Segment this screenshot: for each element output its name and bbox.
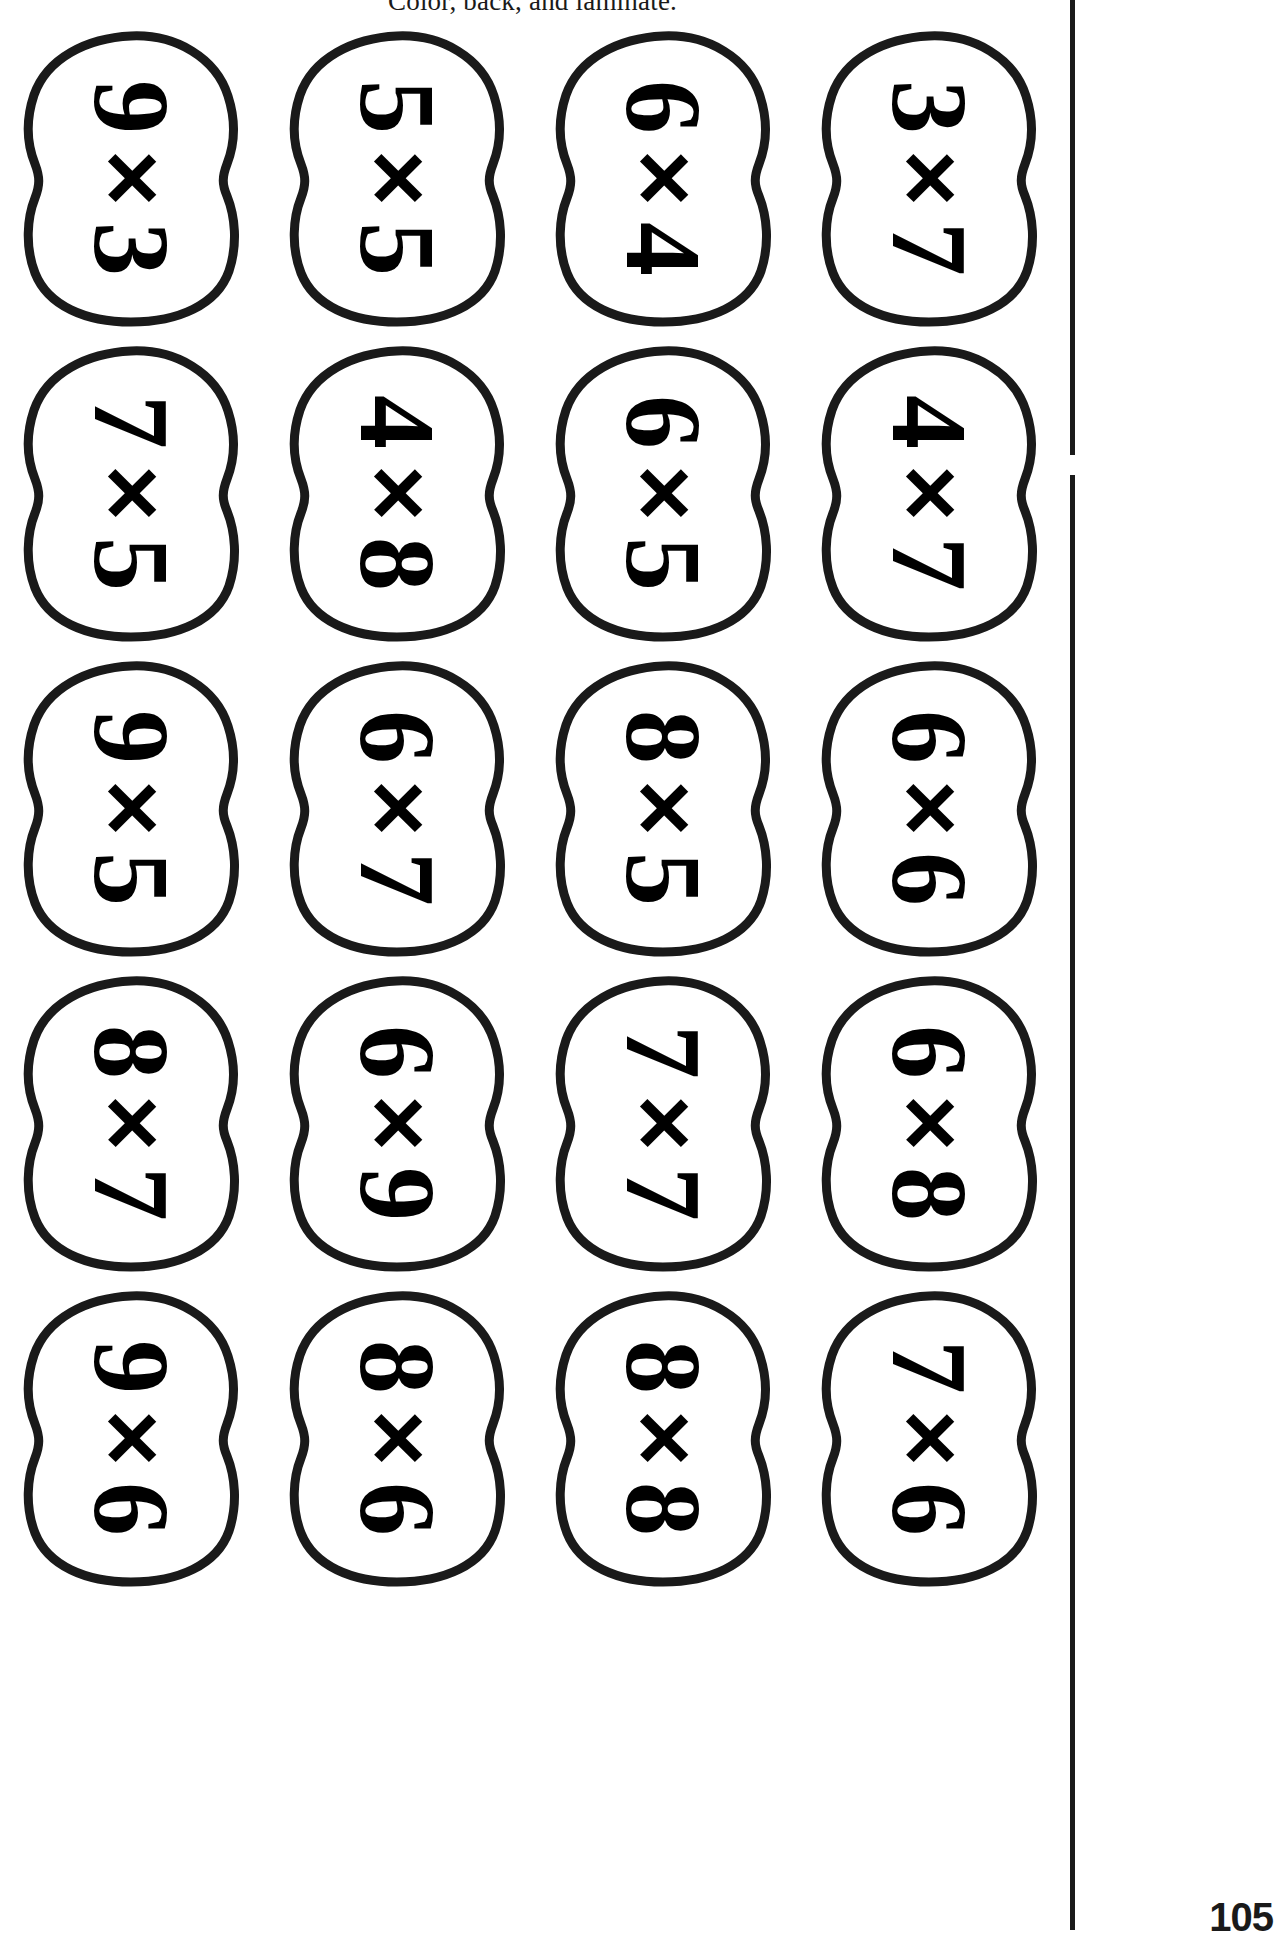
factor-a: 7 xyxy=(875,1340,983,1394)
factor-b: 9 xyxy=(343,1167,451,1221)
flashcard-8[interactable]: 4 × 7 xyxy=(806,343,1052,643)
flashcard-cell-3: 6 × 4 xyxy=(532,22,798,337)
flashcard-6[interactable]: 4 × 8 xyxy=(274,343,520,643)
flashcard-cell-10: 6 × 7 xyxy=(266,652,532,967)
equation: 5 × 5 xyxy=(274,28,520,328)
multiply-icon: × xyxy=(85,150,181,206)
flashcard-cell-16: 6 × 8 xyxy=(798,967,1064,1282)
flashcard-cell-12: 6 × 6 xyxy=(798,652,1064,967)
factor-a: 8 xyxy=(343,1340,451,1394)
factor-a: 9 xyxy=(77,1340,185,1394)
multiply-icon: × xyxy=(351,1410,447,1466)
factor-a: 6 xyxy=(343,1025,451,1079)
flashcard-cell-9: 9 × 5 xyxy=(0,652,266,967)
equation: 6 × 7 xyxy=(274,658,520,958)
flashcard-20[interactable]: 7 × 6 xyxy=(806,1288,1052,1588)
equation: 6 × 9 xyxy=(274,973,520,1273)
factor-b: 5 xyxy=(77,537,185,591)
flashcard-cell-15: 7 × 7 xyxy=(532,967,798,1282)
multiply-icon: × xyxy=(617,1095,713,1151)
factor-a: 6 xyxy=(875,1025,983,1079)
factor-b: 5 xyxy=(609,537,717,591)
factor-b: 3 xyxy=(77,222,185,276)
factor-b: 8 xyxy=(609,1482,717,1536)
page-edge-rule-gap xyxy=(1068,455,1077,475)
factor-b: 5 xyxy=(77,852,185,906)
flashcard-11[interactable]: 8 × 5 xyxy=(540,658,786,958)
multiply-icon: × xyxy=(85,1410,181,1466)
factor-a: 4 xyxy=(343,395,451,449)
multiply-icon: × xyxy=(351,465,447,521)
factor-b: 7 xyxy=(875,537,983,591)
flashcard-cell-1: 9 × 3 xyxy=(0,22,266,337)
equation: 7 × 7 xyxy=(540,973,786,1273)
page-edge-rule xyxy=(1070,0,1075,1930)
multiply-icon: × xyxy=(883,780,979,836)
flashcard-19[interactable]: 8 × 8 xyxy=(540,1288,786,1588)
equation: 7 × 6 xyxy=(806,1288,1052,1588)
flashcard-cell-5: 7 × 5 xyxy=(0,337,266,652)
flashcard-12[interactable]: 6 × 6 xyxy=(806,658,1052,958)
factor-b: 5 xyxy=(609,852,717,906)
flashcard-cell-20: 7 × 6 xyxy=(798,1282,1064,1597)
factor-a: 7 xyxy=(609,1025,717,1079)
flashcard-cell-18: 8 × 6 xyxy=(266,1282,532,1597)
flashcard-grid: 9 × 3 5 × 5 xyxy=(0,22,1065,1597)
flashcard-7[interactable]: 6 × 5 xyxy=(540,343,786,643)
multiply-icon: × xyxy=(85,780,181,836)
factor-b: 7 xyxy=(343,852,451,906)
equation: 9 × 3 xyxy=(8,28,254,328)
factor-a: 6 xyxy=(343,710,451,764)
multiply-icon: × xyxy=(617,1410,713,1466)
instruction-header: Color, back, and laminate. xyxy=(0,0,1065,17)
multiply-icon: × xyxy=(883,150,979,206)
flashcard-4[interactable]: 3 × 7 xyxy=(806,28,1052,328)
flashcard-2[interactable]: 5 × 5 xyxy=(274,28,520,328)
multiply-icon: × xyxy=(351,150,447,206)
equation: 6 × 6 xyxy=(806,658,1052,958)
multiply-icon: × xyxy=(351,1095,447,1151)
flashcard-10[interactable]: 6 × 7 xyxy=(274,658,520,958)
factor-a: 9 xyxy=(77,710,185,764)
equation: 6 × 4 xyxy=(540,28,786,328)
multiply-icon: × xyxy=(617,150,713,206)
factor-a: 3 xyxy=(875,80,983,134)
flashcard-cell-19: 8 × 8 xyxy=(532,1282,798,1597)
flashcard-cell-11: 8 × 5 xyxy=(532,652,798,967)
multiply-icon: × xyxy=(883,1095,979,1151)
flashcard-cell-8: 4 × 7 xyxy=(798,337,1064,652)
factor-b: 8 xyxy=(343,537,451,591)
flashcard-5[interactable]: 7 × 5 xyxy=(8,343,254,643)
factor-a: 6 xyxy=(875,710,983,764)
equation: 6 × 5 xyxy=(540,343,786,643)
equation: 3 × 7 xyxy=(806,28,1052,328)
flashcard-9[interactable]: 9 × 5 xyxy=(8,658,254,958)
multiply-icon: × xyxy=(85,1095,181,1151)
flashcard-18[interactable]: 8 × 6 xyxy=(274,1288,520,1588)
flashcard-14[interactable]: 6 × 9 xyxy=(274,973,520,1273)
multiply-icon: × xyxy=(617,780,713,836)
flashcard-3[interactable]: 6 × 4 xyxy=(540,28,786,328)
multiply-icon: × xyxy=(85,465,181,521)
flashcard-cell-7: 6 × 5 xyxy=(532,337,798,652)
equation: 7 × 5 xyxy=(8,343,254,643)
factor-b: 7 xyxy=(875,222,983,276)
page-number: 105 xyxy=(1209,1895,1273,1935)
factor-b: 6 xyxy=(77,1482,185,1536)
factor-a: 6 xyxy=(609,395,717,449)
flashcard-17[interactable]: 9 × 6 xyxy=(8,1288,254,1588)
factor-a: 5 xyxy=(343,80,451,134)
flashcard-15[interactable]: 7 × 7 xyxy=(540,973,786,1273)
factor-a: 7 xyxy=(77,395,185,449)
multiply-icon: × xyxy=(351,780,447,836)
factor-b: 6 xyxy=(875,1482,983,1536)
right-margin-panel xyxy=(1075,0,1281,1930)
factor-a: 8 xyxy=(609,1340,717,1394)
equation: 8 × 8 xyxy=(540,1288,786,1588)
flashcard-13[interactable]: 8 × 7 xyxy=(8,973,254,1273)
flashcard-1[interactable]: 9 × 3 xyxy=(8,28,254,328)
equation: 8 × 6 xyxy=(274,1288,520,1588)
factor-a: 8 xyxy=(77,1025,185,1079)
flashcard-16[interactable]: 6 × 8 xyxy=(806,973,1052,1273)
factor-a: 9 xyxy=(77,80,185,134)
